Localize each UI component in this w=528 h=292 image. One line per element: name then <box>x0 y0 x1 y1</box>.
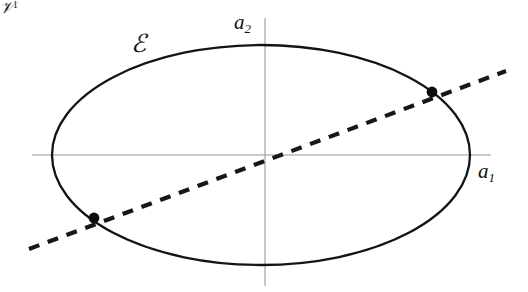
intersection-point-upper-right <box>427 87 438 98</box>
intersection-point-lower-left <box>89 213 100 224</box>
figure-canvas <box>0 0 528 292</box>
eigenvector-dashed-line <box>29 71 506 249</box>
ellipse-set-label: ℰ <box>131 31 146 56</box>
a2-axis-label: a2 <box>234 12 251 35</box>
ellipse-eigenvector-figure: ℰ a2 a1 𝒱1 <box>0 0 528 292</box>
eigenvector-v1-label: 𝒱1 <box>0 0 18 16</box>
a1-axis-label: a1 <box>478 161 495 184</box>
